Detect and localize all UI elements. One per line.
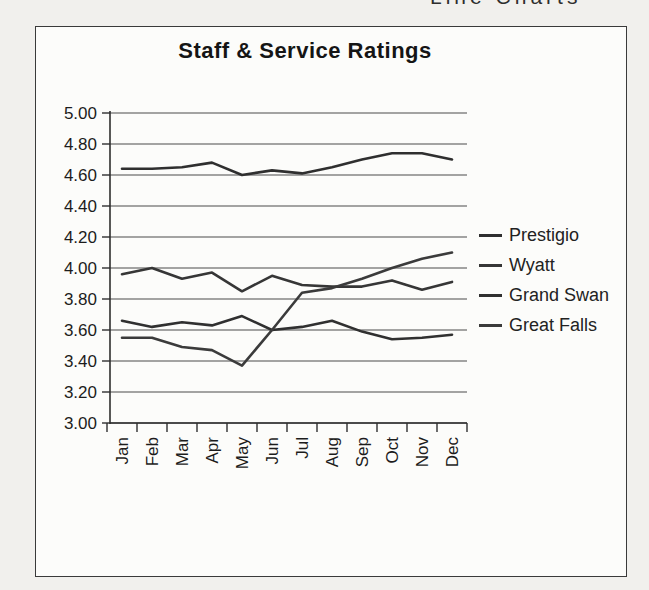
y-tick-label: 4.00	[64, 259, 97, 278]
y-tick-label: 4.80	[64, 135, 97, 154]
series-line-grand-swan	[122, 316, 452, 339]
x-tick-label: Aug	[323, 437, 342, 467]
legend-line-marker	[479, 324, 502, 327]
x-tick-label: Apr	[203, 437, 222, 464]
legend: Prestigio Wyatt Grand Swan Great Falls	[479, 220, 629, 340]
legend-item-wyatt: Wyatt	[479, 250, 629, 280]
y-tick-label: 4.40	[64, 197, 97, 216]
x-tick-label: Feb	[143, 437, 162, 466]
legend-label: Prestigio	[509, 225, 579, 246]
scanned-page: Line Charts Staff & Service Ratings 5.00…	[0, 0, 649, 590]
x-tick-label: May	[233, 437, 252, 470]
x-tick-label: Jun	[263, 437, 282, 464]
series-line-prestigio	[122, 153, 452, 175]
y-tick-label: 4.20	[64, 228, 97, 247]
x-tick-label: Jul	[293, 437, 312, 459]
legend-item-great-falls: Great Falls	[479, 310, 629, 340]
legend-line-marker	[479, 264, 502, 267]
x-tick-label: Dec	[443, 437, 462, 468]
y-tick-label: 3.80	[64, 290, 97, 309]
series-line-wyatt	[122, 268, 452, 291]
legend-label: Grand Swan	[509, 285, 609, 306]
x-tick-label: Oct	[383, 437, 402, 464]
y-tick-label: 3.60	[64, 321, 97, 340]
legend-label: Great Falls	[509, 315, 597, 336]
y-tick-label: 3.20	[64, 383, 97, 402]
x-tick-label: Nov	[413, 437, 432, 468]
legend-line-marker	[479, 234, 502, 237]
legend-item-prestigio: Prestigio	[479, 220, 629, 250]
y-tick-label: 4.60	[64, 166, 97, 185]
legend-label: Wyatt	[509, 255, 555, 276]
y-tick-label: 5.00	[64, 104, 97, 123]
legend-line-marker	[479, 294, 502, 297]
y-tick-label: 3.00	[64, 414, 97, 433]
x-tick-label: Mar	[173, 437, 192, 467]
legend-item-grand-swan: Grand Swan	[479, 280, 629, 310]
y-tick-label: 3.40	[64, 352, 97, 371]
series-line-great-falls	[122, 253, 452, 366]
x-tick-label: Sep	[353, 437, 372, 467]
x-tick-label: Jan	[113, 437, 132, 464]
